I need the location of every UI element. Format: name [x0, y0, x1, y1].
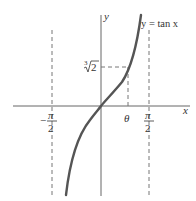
cube-root-index: 3: [84, 59, 88, 67]
neg-sign: −: [40, 114, 46, 126]
neg-pi-denominator: 2: [48, 122, 54, 134]
cube-root-radicand: 2: [91, 61, 97, 73]
x-axis-label: x: [182, 104, 188, 116]
neg-pi-numerator: π: [48, 109, 54, 121]
tan-curve: [66, 15, 141, 195]
function-label: y = tan x: [141, 18, 179, 29]
y-axis-label: y: [103, 10, 109, 22]
pi-numerator: π: [145, 109, 151, 121]
pi-denominator: 2: [145, 122, 151, 134]
theta-label: θ: [124, 112, 130, 124]
tan-graph: y x y = tan x − π 2 θ π 2 3 2: [0, 0, 196, 201]
